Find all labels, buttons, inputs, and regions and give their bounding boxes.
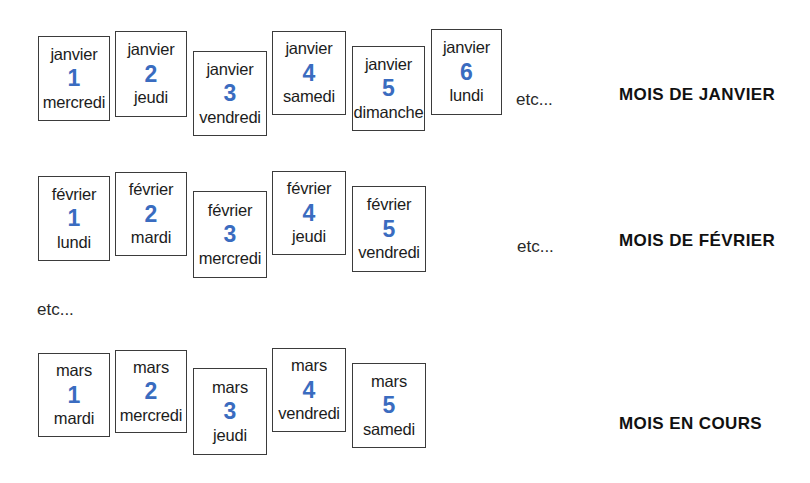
etc-label-fevrier: etc... bbox=[517, 237, 554, 257]
card-month: février bbox=[52, 186, 96, 203]
calendar-card: février 1 lundi bbox=[38, 176, 110, 261]
card-weekday: mercredi bbox=[199, 250, 262, 267]
card-day-number: 2 bbox=[145, 377, 158, 406]
card-day-number: 5 bbox=[383, 215, 396, 244]
card-day-number: 1 bbox=[68, 204, 81, 233]
card-weekday: jeudi bbox=[134, 89, 168, 106]
calendar-card: janvier 1 mercredi bbox=[38, 36, 110, 121]
calendar-card: janvier 6 lundi bbox=[431, 29, 502, 115]
calendar-card: février 5 vendredi bbox=[352, 186, 426, 272]
card-month: mars bbox=[371, 373, 407, 390]
card-day-number: 4 bbox=[303, 199, 316, 228]
card-month: février bbox=[208, 202, 252, 219]
card-month: février bbox=[129, 181, 173, 198]
card-weekday: lundi bbox=[450, 87, 484, 104]
card-day-number: 3 bbox=[224, 79, 237, 108]
card-day-number: 5 bbox=[382, 74, 395, 103]
card-month: mars bbox=[133, 359, 169, 376]
calendar-card: mars 5 samedi bbox=[352, 363, 426, 448]
row-caption-mois-en-cours: MOIS EN COURS bbox=[619, 414, 762, 434]
card-day-number: 3 bbox=[224, 397, 237, 426]
card-day-number: 1 bbox=[68, 64, 81, 93]
card-weekday: mercredi bbox=[43, 94, 106, 111]
card-month: mars bbox=[56, 362, 92, 379]
card-weekday: vendredi bbox=[358, 244, 420, 261]
card-month: janvier bbox=[206, 61, 253, 78]
card-weekday: jeudi bbox=[213, 427, 247, 444]
card-month: février bbox=[287, 180, 331, 197]
calendar-card: mars 2 mercredi bbox=[115, 350, 187, 433]
row-caption-fevrier: MOIS DE FÉVRIER bbox=[619, 231, 775, 251]
card-day-number: 6 bbox=[460, 58, 473, 87]
calendar-card: janvier 2 jeudi bbox=[115, 31, 187, 117]
card-day-number: 4 bbox=[303, 376, 316, 405]
card-weekday: samedi bbox=[363, 421, 415, 438]
card-month: janvier bbox=[443, 39, 490, 56]
card-month: janvier bbox=[285, 40, 332, 57]
calendar-card: février 3 mercredi bbox=[193, 191, 267, 278]
calendar-card: mars 3 jeudi bbox=[193, 368, 267, 455]
card-month: janvier bbox=[365, 56, 412, 73]
card-month: mars bbox=[212, 379, 248, 396]
card-weekday: dimanche bbox=[354, 104, 424, 121]
card-weekday: lundi bbox=[57, 234, 91, 251]
card-weekday: mardi bbox=[131, 229, 171, 246]
calendar-card: mars 4 vendredi bbox=[272, 348, 346, 432]
diagram-canvas: janvier 1 mercredi janvier 2 jeudi janvi… bbox=[0, 0, 810, 483]
card-weekday: vendredi bbox=[278, 405, 340, 422]
etc-label-rows: etc... bbox=[37, 300, 74, 320]
card-month: mars bbox=[291, 357, 327, 374]
etc-label-janvier: etc... bbox=[516, 90, 553, 110]
card-day-number: 5 bbox=[383, 391, 396, 420]
card-month: janvier bbox=[50, 46, 97, 63]
card-day-number: 1 bbox=[68, 381, 81, 410]
calendar-card: janvier 3 vendredi bbox=[193, 51, 267, 136]
calendar-card: février 4 jeudi bbox=[272, 171, 346, 255]
card-month: février bbox=[367, 196, 411, 213]
card-weekday: jeudi bbox=[292, 228, 326, 245]
card-weekday: vendredi bbox=[199, 109, 261, 126]
card-month: janvier bbox=[127, 41, 174, 58]
card-day-number: 3 bbox=[224, 220, 237, 249]
card-weekday: mercredi bbox=[120, 407, 183, 424]
calendar-card: mars 1 mardi bbox=[38, 353, 110, 437]
card-weekday: mardi bbox=[54, 410, 94, 427]
calendar-card: janvier 4 samedi bbox=[272, 31, 346, 115]
card-day-number: 2 bbox=[145, 60, 158, 89]
card-day-number: 4 bbox=[303, 59, 316, 88]
calendar-card: février 2 mardi bbox=[115, 172, 187, 256]
row-caption-janvier: MOIS DE JANVIER bbox=[619, 85, 775, 105]
card-day-number: 2 bbox=[145, 200, 158, 229]
calendar-card: janvier 5 dimanche bbox=[352, 46, 425, 131]
card-weekday: samedi bbox=[283, 88, 335, 105]
